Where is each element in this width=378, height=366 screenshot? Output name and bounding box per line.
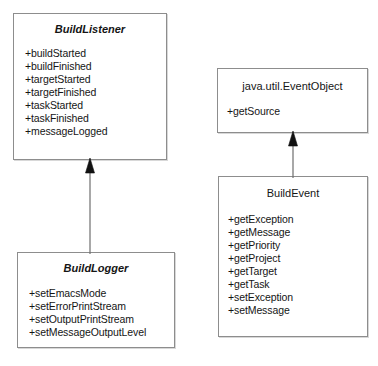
member-item: +getTask xyxy=(228,278,367,291)
generalization-arrow-buildevent-to-java-util-eventobject xyxy=(279,131,307,178)
class-box-buildlistener[interactable]: BuildListener +buildStarted +buildFinish… xyxy=(13,13,167,160)
member-item: +setMessageOutputLevel xyxy=(29,326,174,339)
member-item: +setException xyxy=(228,291,367,304)
generalization-arrow-buildlogger-to-buildlistener xyxy=(76,158,104,254)
member-item: +buildFinished xyxy=(25,60,166,73)
member-list-buildevent: +getException +getMessage +getPriority +… xyxy=(219,213,367,317)
member-item: +getException xyxy=(228,213,367,226)
class-box-java-util-eventobject[interactable]: java.util.EventObject +getSource xyxy=(217,68,368,133)
member-item: +setEmacsMode xyxy=(29,287,174,300)
member-item: +setErrorPrintStream xyxy=(29,300,174,313)
member-item: +targetStarted xyxy=(25,73,166,86)
member-list-java-util-eventobject: +getSource xyxy=(218,105,367,118)
class-title-buildlistener: BuildListener xyxy=(14,23,166,36)
member-item: +getSource xyxy=(227,105,367,118)
member-item: +getTarget xyxy=(228,265,367,278)
member-item: +getPriority xyxy=(228,239,367,252)
member-list-buildlogger: +setEmacsMode +setErrorPrintStream +setO… xyxy=(18,287,174,339)
class-title-java-util-eventobject: java.util.EventObject xyxy=(218,80,367,93)
member-item: +taskFinished xyxy=(25,112,166,125)
member-item: +getMessage xyxy=(228,226,367,239)
class-box-buildevent[interactable]: BuildEvent +getException +getMessage +ge… xyxy=(218,176,368,337)
member-item: +buildStarted xyxy=(25,47,166,60)
member-item: +getProject xyxy=(228,252,367,265)
member-list-buildlistener: +buildStarted +buildFinished +targetStar… xyxy=(14,47,166,138)
class-title-buildevent: BuildEvent xyxy=(219,187,367,200)
member-item: +setOutputPrintStream xyxy=(29,313,174,326)
member-item: +messageLogged xyxy=(25,125,166,138)
member-item: +taskStarted xyxy=(25,99,166,112)
class-title-buildlogger: BuildLogger xyxy=(18,262,174,275)
uml-class-diagram: BuildListener +buildStarted +buildFinish… xyxy=(0,0,378,366)
member-item: +setMessage xyxy=(228,304,367,317)
member-item: +targetFinished xyxy=(25,86,166,99)
class-box-buildlogger[interactable]: BuildLogger +setEmacsMode +setErrorPrint… xyxy=(17,252,175,348)
